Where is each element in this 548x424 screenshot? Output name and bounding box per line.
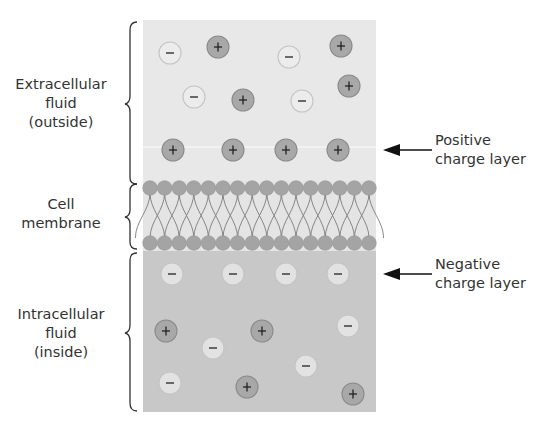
- intracellular-label-line3: (inside): [0, 343, 122, 362]
- phospholipid-head: [274, 236, 289, 251]
- phospholipid-head: [289, 181, 304, 196]
- phospholipid-head: [362, 236, 377, 251]
- phospholipid-head: [274, 181, 289, 196]
- braces: [125, 22, 137, 411]
- phospholipid-head: [333, 236, 348, 251]
- positive-ion: [232, 89, 254, 111]
- phospholipid-head: [347, 181, 362, 196]
- phospholipid-head: [347, 236, 362, 251]
- extracellular-label-line2: fluid: [0, 94, 122, 113]
- negative-ion: [159, 372, 181, 394]
- phospholipid-head: [303, 236, 318, 251]
- negative-ion: [291, 90, 313, 112]
- phospholipid-head: [318, 181, 333, 196]
- positive-ion: [155, 320, 177, 342]
- negative-ion: [161, 263, 183, 285]
- membrane-label-line1: Cell: [0, 195, 122, 214]
- positive-label-line1: Positive: [435, 131, 526, 150]
- positive-label-line2: charge layer: [435, 150, 526, 169]
- negative-ion: [202, 337, 224, 359]
- membrane-label: Cell membrane: [0, 195, 122, 233]
- phospholipid-head: [216, 181, 231, 196]
- positive-ion: [275, 139, 297, 161]
- negative-ion: [183, 86, 205, 108]
- phospholipid-head: [201, 236, 216, 251]
- positive-arrow-head: [383, 144, 400, 156]
- phospholipid-head: [289, 236, 304, 251]
- negative-ion: [295, 355, 317, 377]
- extracellular-label: Extracellular fluid (outside): [0, 75, 122, 132]
- phospholipid-head: [245, 236, 260, 251]
- phospholipid-head: [318, 236, 333, 251]
- positive-charge-layer-label: Positive charge layer: [435, 131, 526, 169]
- positive-ion: [251, 320, 273, 342]
- intracellular-label-line1: Intracellular: [0, 305, 122, 324]
- negative-ion: [327, 263, 349, 285]
- negative-label-line1: Negative: [435, 255, 526, 274]
- negative-ion: [275, 263, 297, 285]
- phospholipid-head: [187, 236, 202, 251]
- negative-ion: [159, 42, 181, 64]
- intracellular-label: Intracellular fluid (inside): [0, 305, 122, 362]
- negative-ion: [337, 315, 359, 337]
- negative-ion: [222, 263, 244, 285]
- phospholipid-head: [157, 181, 172, 196]
- phospholipid-head: [303, 181, 318, 196]
- positive-ion: [162, 139, 184, 161]
- extracellular-brace: [125, 22, 137, 184]
- positive-ion: [222, 139, 244, 161]
- phospholipid-head: [172, 181, 187, 196]
- phospholipid-head: [245, 181, 260, 196]
- phospholipid-head: [216, 236, 231, 251]
- arrows: [383, 144, 432, 280]
- phospholipid-head: [362, 181, 377, 196]
- intracellular-brace: [125, 253, 137, 411]
- phospholipid-head: [157, 236, 172, 251]
- extracellular-label-line3: (outside): [0, 113, 122, 132]
- membrane-label-line2: membrane: [0, 214, 122, 233]
- positive-ion: [330, 35, 352, 57]
- phospholipid-head: [143, 181, 158, 196]
- positive-ion: [342, 383, 364, 405]
- phospholipid-head: [230, 181, 245, 196]
- phospholipid-head: [143, 236, 158, 251]
- phospholipid-head: [172, 236, 187, 251]
- positive-ion: [338, 75, 360, 97]
- positive-ion: [327, 139, 349, 161]
- phospholipid-head: [260, 181, 275, 196]
- phospholipid-head: [187, 181, 202, 196]
- negative-ion: [278, 46, 300, 68]
- negative-charge-layer-label: Negative charge layer: [435, 255, 526, 293]
- positive-ion: [207, 36, 229, 58]
- phospholipid-head: [201, 181, 216, 196]
- phospholipid-head: [333, 181, 348, 196]
- phospholipid-head: [230, 236, 245, 251]
- positive-ion: [236, 376, 258, 398]
- phospholipid-head: [260, 236, 275, 251]
- extracellular-label-line1: Extracellular: [0, 75, 122, 94]
- negative-label-line2: charge layer: [435, 274, 526, 293]
- membrane-brace: [125, 184, 137, 249]
- negative-arrow-head: [383, 268, 400, 280]
- intracellular-label-line2: fluid: [0, 324, 122, 343]
